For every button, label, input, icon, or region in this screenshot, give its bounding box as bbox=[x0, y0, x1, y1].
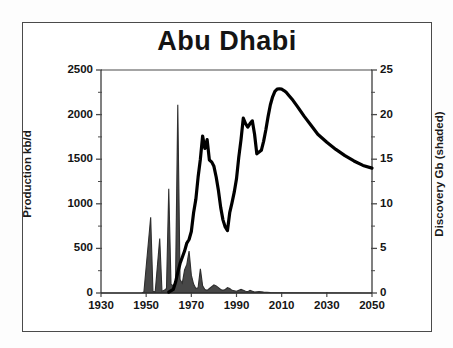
plot-area bbox=[0, 0, 453, 348]
figure: Abu Dhabi Production kb/d Discovery Gb (… bbox=[0, 0, 453, 348]
production-line bbox=[169, 89, 372, 292]
discovery-area bbox=[101, 105, 372, 293]
